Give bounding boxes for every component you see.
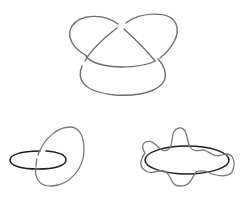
knot-diagram-figure: Trefoil knot Hopf link Link with wavy co… [0, 0, 249, 202]
hopf-link [10, 127, 84, 186]
wavy-link [141, 128, 234, 186]
knot-diagrams-svg [0, 0, 249, 202]
trefoil-knot [70, 14, 178, 95]
